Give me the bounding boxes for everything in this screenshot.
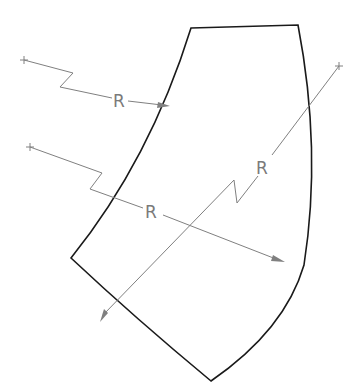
radius-label: R — [256, 158, 268, 178]
technical-drawing: R R R — [0, 0, 364, 388]
radius-dimension-upper: R — [20, 56, 170, 111]
radius-label: R — [113, 91, 125, 111]
radius-dimension-lower: R — [26, 143, 285, 262]
radius-dimension-outer: R — [100, 62, 343, 322]
leader-line — [163, 215, 276, 259]
arrowhead-icon — [271, 255, 285, 262]
leader-line — [272, 66, 339, 155]
radius-label: R — [145, 202, 157, 222]
jogged-leader-line — [24, 60, 112, 98]
jogged-leader-line — [104, 176, 258, 314]
part-outline — [71, 25, 312, 381]
leader-line — [128, 101, 162, 105]
drawing-canvas: R R R — [0, 0, 364, 388]
